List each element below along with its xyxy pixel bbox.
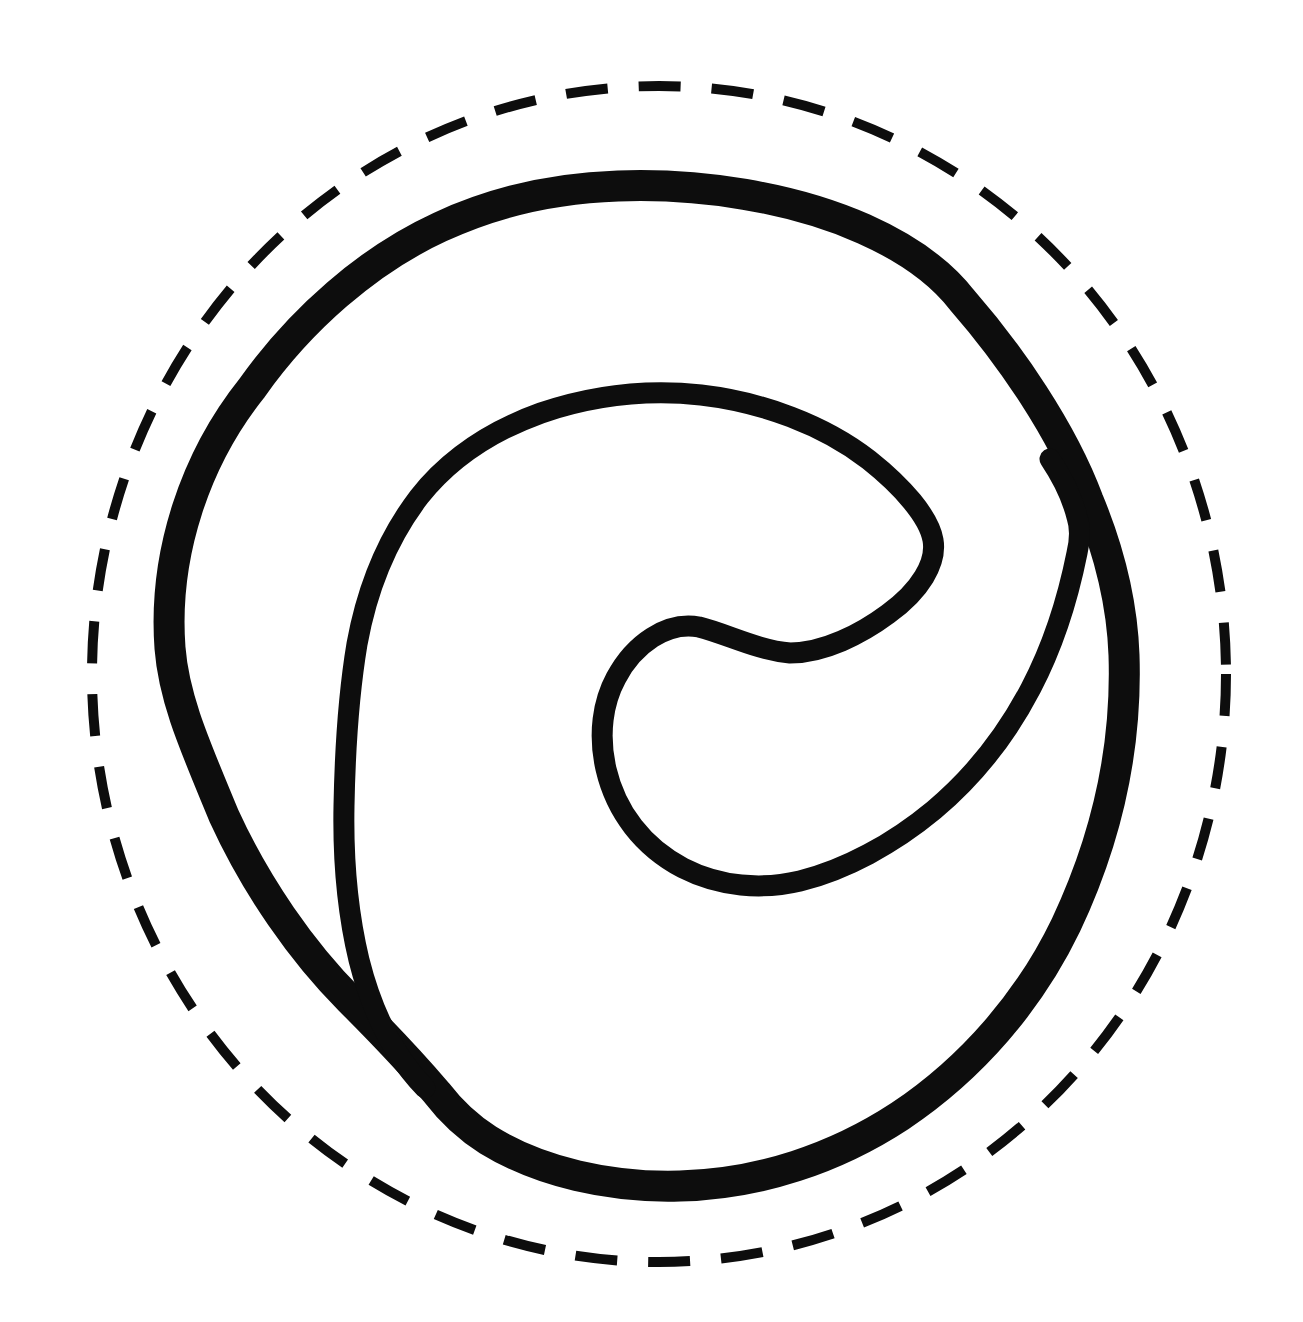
- spiral-line-art: [0, 0, 1303, 1322]
- outer-ring-path: [169, 186, 1124, 1187]
- inner-spiral-path: [344, 393, 1080, 1088]
- cut-guide-dashed-circle: [92, 86, 1226, 1262]
- printable-page: [0, 0, 1303, 1322]
